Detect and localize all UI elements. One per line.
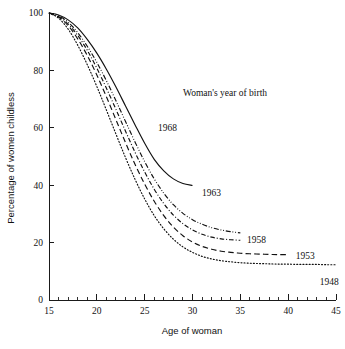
x-axis-ticks: [49, 294, 336, 300]
y-axis-tick-labels: 020406080100: [29, 8, 44, 305]
x-tick-label: 40: [283, 306, 293, 316]
x-tick-label: 30: [188, 306, 198, 316]
x-tick-label: 15: [44, 306, 54, 316]
page-edge-artifact: [0, 342, 345, 349]
series-line-1958: [49, 13, 240, 240]
series-label-1953: 1953: [296, 251, 315, 261]
x-tick-label: 35: [236, 306, 246, 316]
y-tick-label: 60: [34, 123, 44, 133]
series-label-1948: 1948: [320, 277, 339, 287]
x-axis-title: Age of woman: [162, 325, 223, 336]
x-tick-label: 20: [92, 306, 102, 316]
x-tick-label: 25: [140, 306, 150, 316]
chart-figure: 15202530354045 020406080100 196819631958…: [0, 0, 345, 349]
series-line-1953: [49, 13, 288, 255]
axes-group: [49, 13, 336, 300]
y-tick-label: 0: [38, 295, 43, 305]
series-line-1968: [49, 13, 193, 185]
series-line-1948: [49, 13, 336, 265]
y-tick-label: 100: [29, 8, 44, 18]
data-curves: [49, 13, 336, 265]
x-axis-tick-labels: 15202530354045: [44, 306, 341, 316]
x-tick-label: 45: [331, 306, 341, 316]
y-axis-ticks: [49, 13, 54, 300]
y-tick-label: 80: [34, 66, 44, 76]
series-label-1968: 1968: [158, 123, 177, 133]
series-labels: 19681963195819531948: [158, 123, 339, 287]
series-label-1963: 1963: [202, 188, 221, 198]
y-axis-title: Percentage of women childless: [5, 92, 16, 224]
legend-title: Woman's year of birth: [183, 88, 267, 98]
y-tick-label: 40: [34, 181, 44, 191]
y-tick-label: 20: [34, 238, 44, 248]
series-line-1963: [49, 13, 240, 233]
series-label-1958: 1958: [247, 235, 266, 245]
line-chart: 15202530354045 020406080100 196819631958…: [0, 0, 345, 349]
